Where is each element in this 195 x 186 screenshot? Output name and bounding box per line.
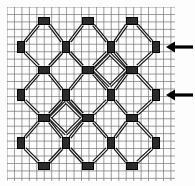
node-horizontal — [127, 115, 138, 122]
node-horizontal — [83, 18, 94, 25]
node-vertical — [153, 138, 160, 149]
node-horizontal — [127, 163, 138, 170]
node-layer — [18, 18, 160, 170]
node-vertical — [153, 90, 160, 101]
lattice-diagram — [0, 0, 195, 186]
node-horizontal — [83, 67, 94, 74]
node-vertical — [108, 90, 115, 101]
node-vertical — [63, 42, 70, 53]
node-vertical — [63, 138, 70, 149]
node-horizontal — [39, 18, 50, 25]
node-vertical — [63, 90, 70, 101]
node-vertical — [108, 42, 115, 53]
node-horizontal — [39, 115, 50, 122]
node-vertical — [18, 138, 25, 149]
arrow-annotation-layer — [166, 42, 193, 101]
node-horizontal — [127, 67, 138, 74]
node-horizontal — [39, 67, 50, 74]
node-vertical — [153, 42, 160, 53]
node-horizontal — [127, 18, 138, 25]
node-vertical — [18, 42, 25, 53]
node-vertical — [18, 90, 25, 101]
node-vertical — [108, 138, 115, 149]
arrow-lower-icon — [166, 90, 193, 101]
node-horizontal — [83, 115, 94, 122]
node-horizontal — [39, 163, 50, 170]
figure-canvas — [0, 0, 195, 186]
arrow-upper-icon — [166, 42, 193, 53]
node-horizontal — [83, 163, 94, 170]
